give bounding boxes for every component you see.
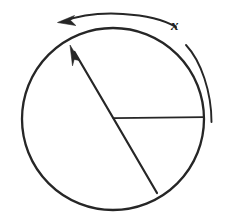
angle-label-x: x xyxy=(171,18,179,33)
figure-canvas: x xyxy=(0,0,230,219)
diagram-svg xyxy=(0,0,230,219)
angle-measure-arc xyxy=(186,45,212,122)
rotation-arc-arrowhead xyxy=(58,16,76,26)
rotating-radius-arrowhead xyxy=(70,45,80,66)
reference-radius xyxy=(114,117,205,118)
rotation-arc xyxy=(64,14,177,27)
rotating-radius-line xyxy=(75,52,158,193)
